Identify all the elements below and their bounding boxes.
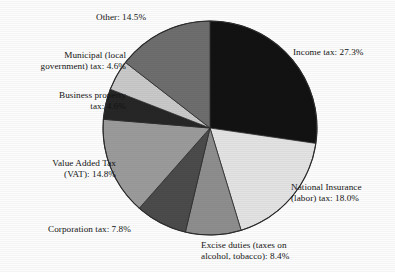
slice-label-municipal-tax: Municipal (local government) tax: 4.6% [2,50,126,73]
slice-label-other: Other: 14.5% [96,12,202,23]
slice-label-income-tax: Income tax: 27.3% [293,47,395,58]
slice-label-business-property-tax: Business property tax: 4.6% [2,90,126,113]
slice-label-value-added-tax: Value Added Tax (VAT): 14.8% [4,158,116,181]
slice-label-excise-duties: Excise duties (taxes on alcohol, tobacco… [201,240,337,263]
pie-slice-group [103,21,317,235]
pie-chart-figure: Other: 14.5% Municipal (local government… [0,0,395,272]
pie-slice [210,21,317,143]
slice-label-national-insurance: National Insurance (labor) tax: 18.0% [291,182,395,205]
slice-label-corporation-tax: Corporation tax: 7.8% [48,224,166,235]
